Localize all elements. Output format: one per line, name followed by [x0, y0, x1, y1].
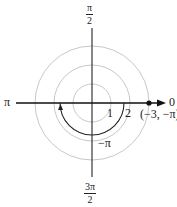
- angle-label-pi-over-2-denominator: 2: [87, 15, 92, 26]
- polar-grid: [0, 0, 177, 207]
- plotted-point: [146, 100, 151, 105]
- polar-axis-arrow-icon: [157, 100, 166, 107]
- angle-label-3pi-over-2: 3π 2: [84, 182, 96, 205]
- arc-angle-label: −π: [98, 137, 111, 149]
- point-label: (−3, −π): [140, 108, 177, 120]
- radius-label-1: 1: [107, 107, 113, 119]
- angle-label-pi-over-2: π 2: [86, 3, 93, 26]
- angle-label-pi-over-2-numerator: π: [86, 3, 93, 15]
- angle-label-3pi-over-2-denominator: 2: [88, 194, 93, 205]
- radius-label-2: 2: [125, 107, 131, 119]
- arc-arrow-icon: [58, 104, 63, 110]
- angle-label-pi: π: [4, 96, 10, 108]
- angle-label-3pi-over-2-numerator: 3π: [84, 182, 96, 194]
